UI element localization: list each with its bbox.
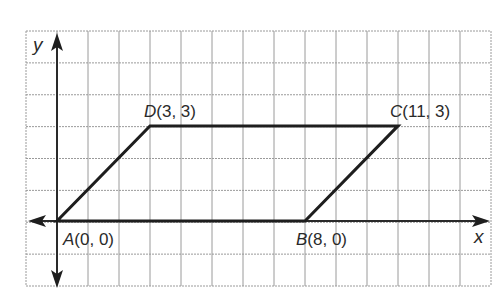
point-label-a: A(0, 0) [62,230,114,249]
coordinate-plane: y x D(3, 3) C(11, 3) A(0, 0) B(8, 0) [0,0,504,302]
parallelogram-abcd [57,126,398,221]
axes: y x [28,33,490,288]
x-axis-label: x [473,226,485,247]
point-label-c: C(11, 3) [390,102,450,121]
y-axis-label: y [31,34,44,55]
point-label-b: B(8, 0) [296,230,347,249]
point-label-d: D(3, 3) [144,102,196,121]
